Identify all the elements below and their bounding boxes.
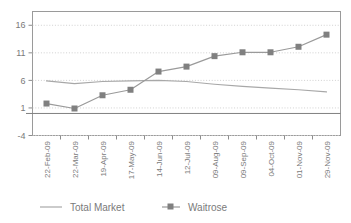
- y-tick-label-1: 1: [20, 103, 25, 113]
- x-axis-label-6: 09-Aug-09: [211, 140, 220, 178]
- data-point-marker-4: [156, 69, 162, 75]
- chart-svg: -4161116 22-Feb-0922-Mar-0919-Apr-0917-M…: [0, 0, 351, 223]
- x-axis-label-10: 29-Nov-09: [323, 140, 332, 178]
- y-tick-label-16: 16: [15, 20, 25, 30]
- chart-container: -4161116 22-Feb-0922-Mar-0919-Apr-0917-M…: [0, 0, 351, 223]
- legend-label-total-market: Total Market: [70, 202, 125, 213]
- data-point-marker-0: [44, 101, 50, 107]
- x-axis-label-3: 17-May-09: [127, 140, 136, 179]
- x-axis-label-9: 01-Nov-09: [295, 140, 304, 178]
- y-tick-label--4: -4: [17, 131, 25, 141]
- data-point-marker-10: [324, 32, 330, 38]
- data-point-marker-9: [296, 44, 302, 50]
- data-point-marker-7: [240, 49, 246, 55]
- chart-background: [0, 0, 351, 223]
- data-point-marker-5: [184, 64, 190, 70]
- x-axis-label-7: 09-Sep-09: [239, 140, 248, 178]
- data-point-marker-3: [128, 87, 134, 93]
- x-axis-label-0: 22-Feb-09: [43, 140, 52, 177]
- data-point-marker-2: [100, 92, 106, 98]
- data-point-marker-8: [268, 49, 274, 55]
- x-axis-label-5: 12-Jul-09: [183, 140, 192, 174]
- legend-swatch-waitrose-marker: [168, 204, 174, 210]
- y-tick-label-6: 6: [20, 76, 25, 86]
- x-axis-label-1: 22-Mar-09: [71, 140, 80, 177]
- x-axis-label-8: 04-Oct-09: [267, 140, 276, 176]
- legend-label-waitrose: Waitrose: [188, 202, 228, 213]
- x-axis-label-2: 19-Apr-09: [99, 140, 108, 176]
- data-point-marker-6: [212, 53, 218, 59]
- data-point-marker-1: [72, 106, 78, 112]
- x-axis-label-4: 14-Jun-09: [155, 140, 164, 177]
- y-tick-label-11: 11: [16, 48, 25, 58]
